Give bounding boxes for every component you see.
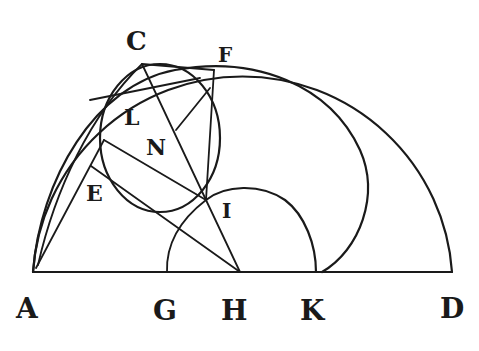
label-A: A: [15, 292, 39, 325]
line-E-H: [91, 166, 240, 272]
label-N: N: [146, 134, 166, 160]
line-F-N: [176, 88, 210, 130]
label-H: H: [221, 294, 247, 327]
label-G: G: [153, 294, 177, 327]
line-L-F: [90, 78, 200, 100]
middle-arc: [33, 66, 368, 272]
label-L: L: [124, 104, 139, 130]
label-C: C: [126, 26, 147, 56]
line-C-I: [142, 64, 206, 200]
label-F: F: [218, 43, 232, 67]
label-I: I: [222, 199, 231, 223]
geometric-figure: C F L N E I A G H K D: [0, 0, 479, 351]
label-K: K: [300, 294, 326, 327]
label-D: D: [440, 292, 464, 325]
outer-semicircle: [33, 76, 452, 272]
label-E: E: [86, 180, 103, 206]
